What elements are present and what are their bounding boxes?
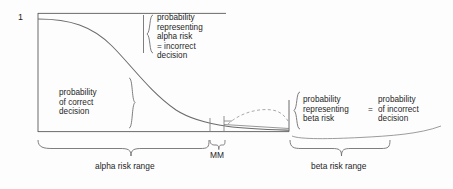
equals-sign: = <box>368 105 373 114</box>
mm-range-brace <box>210 140 225 150</box>
beta-risk-range-label: beta risk range <box>311 161 366 171</box>
mm-range-label: MM <box>210 150 224 160</box>
alpha-risk-range-brace <box>38 140 209 156</box>
incorrect-decision-sweep-brace <box>292 126 441 139</box>
beta-distribution-dashed <box>228 110 288 124</box>
beta-risk-annotation: probability representing beta risk <box>303 95 349 124</box>
figure-container: 1 probability representing alpha risk = … <box>0 0 453 189</box>
correct-decision-annotation: probability of correct decision <box>59 88 97 117</box>
y-axis-top-label: 1 <box>18 12 23 22</box>
beta-tail-line <box>224 125 289 129</box>
alpha-risk-brace <box>147 15 153 53</box>
alpha-risk-range-label: alpha risk range <box>95 161 155 171</box>
beta-risk-brace <box>294 92 300 129</box>
alpha-risk-annotation: probability representing alpha risk = in… <box>157 13 203 61</box>
correct-decision-brace <box>129 78 135 128</box>
incorrect-decision-annotation: probability of incorrect decision <box>378 95 419 124</box>
beta-risk-range-brace <box>290 140 390 156</box>
